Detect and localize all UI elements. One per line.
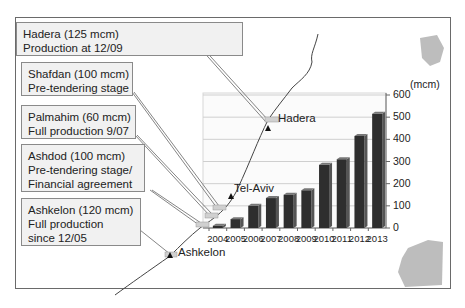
- callout-ashkelon: Ashkelon (120 mcm) Full production since…: [21, 198, 141, 246]
- callout-ashdod: Ashdod (100 mcm) Pre-tendering stage/ Fi…: [21, 144, 145, 192]
- city-label-tel-aviv: Tel-Aviv: [234, 182, 274, 194]
- bar-2012: [354, 134, 367, 228]
- callout-ashkelon-name: Ashkelon (120 mcm): [28, 203, 134, 217]
- bar-2013: [372, 112, 385, 228]
- bar-2008: [284, 193, 297, 228]
- bar-2010: [319, 163, 332, 228]
- callout-ashdod-name: Ashdod (100 mcm): [28, 149, 138, 163]
- callout-shafdan-status: Pre-tendering stage: [28, 81, 126, 95]
- city-label-hadera: Hadera: [278, 112, 316, 124]
- y-tick-label: 600: [393, 88, 411, 100]
- callout-shafdan: Shafdan (100 mcm) Pre-tendering stage: [21, 62, 133, 96]
- bar-2009: [301, 188, 314, 228]
- callout-shafdan-name: Shafdan (100 mcm): [28, 67, 126, 81]
- callout-palmahim-status: Full production 9/07: [28, 124, 129, 138]
- y-tick-label: 400: [393, 132, 411, 144]
- y-tick-label: 300: [393, 155, 411, 167]
- x-tick-label: 2013: [364, 233, 390, 244]
- y-tick-label: 500: [393, 110, 411, 122]
- y-tick-label: 200: [393, 177, 411, 189]
- bar-2006: [248, 204, 261, 228]
- callout-ashdod-status2: Financial agreement: [28, 177, 138, 191]
- bar-2011: [337, 157, 350, 228]
- callout-hadera: Hadera (125 mcm) Production at 12/09: [16, 22, 243, 56]
- callout-ashkelon-status2: since 12/05: [28, 231, 134, 245]
- callout-palmahim: Palmahim (60 mcm) Full production 9/07: [21, 105, 136, 139]
- city-label-ashkelon: Ashkelon: [178, 246, 225, 258]
- land-mass-top-icon: [420, 35, 444, 66]
- callout-hadera-status: Production at 12/09: [23, 41, 236, 55]
- callout-ashkelon-status: Full production: [28, 217, 134, 231]
- y-tick-label: 100: [393, 199, 411, 211]
- callout-ashdod-status: Pre-tendering stage/: [28, 163, 138, 177]
- bar-2005: [231, 217, 244, 228]
- callout-palmahim-name: Palmahim (60 mcm): [28, 110, 129, 124]
- y-tick-label: 0: [393, 221, 399, 233]
- bar-2007: [266, 196, 279, 228]
- land-mass-bottom-icon: [398, 240, 443, 287]
- callout-hadera-name: Hadera (125 mcm): [23, 27, 236, 41]
- y-axis-unit: (mcm): [410, 78, 440, 90]
